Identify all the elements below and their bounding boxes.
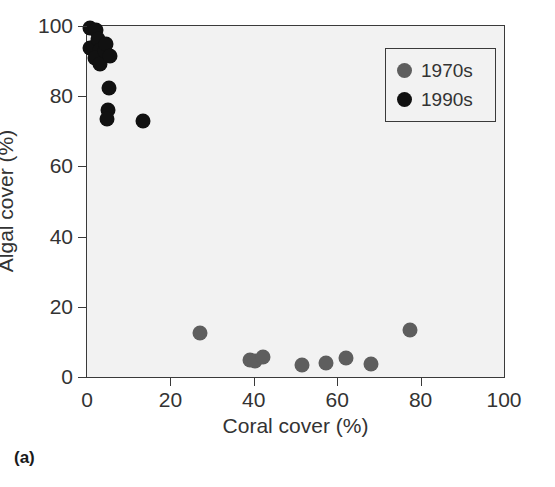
legend[interactable]: 1970s 1990s xyxy=(385,48,496,122)
data-point-1970s-6 xyxy=(338,351,353,366)
x-tick-label-40: 40 xyxy=(242,388,265,412)
x-tick-label-20: 20 xyxy=(159,388,182,412)
x-axis-title: Coral cover (%) xyxy=(86,414,505,438)
y-tick-0 xyxy=(78,377,87,378)
y-tick-40 xyxy=(78,237,87,238)
y-tick-20 xyxy=(78,307,87,308)
y-tick-label-60: 60 xyxy=(50,154,73,178)
legend-item-1990s[interactable]: 1990s xyxy=(386,85,495,114)
x-tick-40 xyxy=(254,377,255,386)
legend-marker-1990s-icon xyxy=(397,92,412,107)
data-point-1990s-11 xyxy=(101,81,116,96)
data-point-1990s-10 xyxy=(103,49,118,64)
x-tick-label-0: 0 xyxy=(81,388,93,412)
x-tick-label-80: 80 xyxy=(409,388,432,412)
data-point-1990s-13 xyxy=(100,112,115,127)
data-point-1970s-4 xyxy=(294,358,309,373)
data-point-1970s-5 xyxy=(318,355,333,370)
x-tick-label-100: 100 xyxy=(486,388,521,412)
x-tick-label-60: 60 xyxy=(326,388,349,412)
y-tick-label-20: 20 xyxy=(50,295,73,319)
y-tick-label-40: 40 xyxy=(50,225,73,249)
legend-marker-1970s-icon xyxy=(397,63,412,78)
legend-label-1990s: 1990s xyxy=(421,90,473,109)
y-axis-title: Algal cover (%) xyxy=(0,130,18,272)
legend-label-1970s: 1970s xyxy=(421,61,473,80)
data-point-1970s-7 xyxy=(363,357,378,372)
legend-item-1970s[interactable]: 1970s xyxy=(386,56,495,85)
panel-label: (a) xyxy=(14,448,35,468)
data-point-1990s-14 xyxy=(136,113,151,128)
x-tick-80 xyxy=(421,377,422,386)
data-point-1970s-8 xyxy=(403,322,418,337)
y-tick-80 xyxy=(78,96,87,97)
x-tick-20 xyxy=(170,377,171,386)
figure-panel-a: 020406080100020406080100 Algal cover (%)… xyxy=(0,0,555,487)
data-point-1970s-3 xyxy=(256,349,271,364)
y-tick-100 xyxy=(78,26,87,27)
data-point-1970s-0 xyxy=(192,326,207,341)
y-tick-label-80: 80 xyxy=(50,84,73,108)
x-tick-60 xyxy=(337,377,338,386)
y-tick-60 xyxy=(78,166,87,167)
y-tick-label-0: 0 xyxy=(61,365,73,389)
y-tick-label-100: 100 xyxy=(38,14,73,38)
